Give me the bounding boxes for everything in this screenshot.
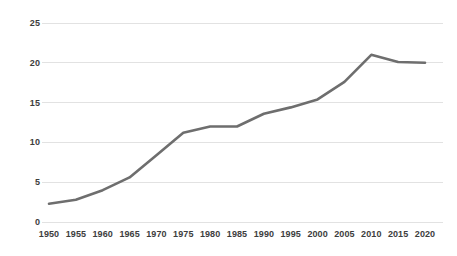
data-line bbox=[49, 55, 425, 204]
x-axis-tick-label: 1970 bbox=[146, 229, 166, 239]
x-axis-tick-label: 1965 bbox=[119, 229, 139, 239]
x-axis-tick-label: 2010 bbox=[361, 229, 381, 239]
y-axis-tick-label: 10 bbox=[14, 137, 40, 147]
line-chart: 0510152025 19501955196019651970197519801… bbox=[0, 0, 457, 256]
x-axis-tick-label: 2015 bbox=[388, 229, 408, 239]
chart-plot-area bbox=[0, 0, 457, 256]
x-axis-tick-label: 1975 bbox=[173, 229, 193, 239]
y-axis-tick-label: 5 bbox=[14, 177, 40, 187]
x-axis-tick-label: 1995 bbox=[280, 229, 300, 239]
y-axis-tick-label: 15 bbox=[14, 98, 40, 108]
x-axis-tick-label: 1985 bbox=[227, 229, 247, 239]
x-axis-tick-label: 2000 bbox=[307, 229, 327, 239]
x-axis-tick-label: 1950 bbox=[39, 229, 59, 239]
data-series-group bbox=[49, 55, 425, 204]
y-axis-tick-label: 25 bbox=[14, 18, 40, 28]
x-axis-tick-label: 2005 bbox=[334, 229, 354, 239]
y-axis-tick-label: 20 bbox=[14, 58, 40, 68]
y-axis-tick-label: 0 bbox=[14, 217, 40, 227]
x-axis-tick-label: 1960 bbox=[92, 229, 112, 239]
x-axis-tick-label: 1990 bbox=[254, 229, 274, 239]
x-axis-tick-label: 2020 bbox=[415, 229, 435, 239]
x-axis-tick-label: 1955 bbox=[66, 229, 86, 239]
x-axis-tick-label: 1980 bbox=[200, 229, 220, 239]
